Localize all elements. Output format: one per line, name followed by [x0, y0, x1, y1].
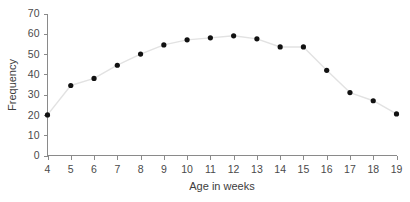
y-axis-tick-marks	[44, 15, 48, 157]
data-point	[301, 44, 306, 49]
data-point	[138, 51, 143, 56]
y-axis-tick-labels: 010203040506070	[28, 7, 40, 161]
x-tick-label: 14	[274, 163, 286, 175]
x-tick-label: 6	[91, 163, 97, 175]
x-tick-label: 16	[321, 163, 333, 175]
data-point	[254, 36, 259, 41]
y-tick-label: 10	[28, 129, 40, 141]
data-point	[161, 42, 166, 47]
x-tick-label: 10	[181, 163, 193, 175]
x-axis-title: Age in weeks	[189, 180, 255, 192]
x-axis-tick-marks	[49, 156, 398, 160]
x-tick-label: 11	[205, 163, 216, 175]
x-axis-tick-labels: 45678910111213141516171819	[45, 163, 403, 175]
data-point	[231, 33, 236, 38]
scatter-line-chart: 010203040506070 456789101112131415161718…	[0, 0, 410, 202]
x-tick-label: 5	[68, 163, 74, 175]
x-tick-label: 8	[138, 163, 144, 175]
x-tick-label: 12	[228, 163, 240, 175]
data-point	[115, 63, 120, 68]
data-point	[347, 90, 352, 95]
x-tick-label: 15	[298, 163, 310, 175]
y-axis-title: Frequency	[6, 59, 18, 111]
data-point	[371, 98, 376, 103]
data-point	[394, 111, 399, 116]
y-tick-label: 40	[28, 68, 40, 80]
x-tick-label: 13	[251, 163, 263, 175]
data-point	[278, 44, 283, 49]
data-point	[185, 37, 190, 42]
x-tick-label: 4	[45, 163, 51, 175]
x-tick-label: 18	[367, 163, 379, 175]
data-point	[91, 76, 96, 81]
y-tick-label: 0	[34, 149, 40, 161]
y-tick-label: 70	[28, 7, 40, 19]
data-point	[324, 68, 329, 73]
x-tick-label: 7	[114, 163, 120, 175]
x-tick-label: 17	[344, 163, 356, 175]
y-tick-label: 30	[28, 88, 40, 100]
chart-figure: 010203040506070 456789101112131415161718…	[0, 0, 410, 202]
data-point	[68, 83, 73, 88]
series-line	[48, 36, 397, 115]
x-tick-label: 9	[161, 163, 167, 175]
y-tick-label: 50	[28, 48, 40, 60]
data-point	[208, 35, 213, 40]
y-tick-label: 20	[28, 109, 40, 121]
x-tick-label: 19	[391, 163, 403, 175]
data-point	[45, 112, 50, 117]
y-tick-label: 60	[28, 27, 40, 39]
